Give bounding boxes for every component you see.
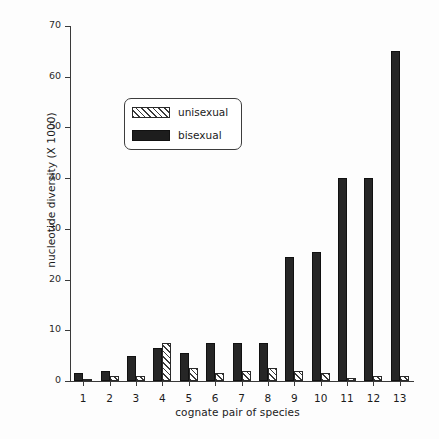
bar-group <box>391 26 409 381</box>
bar-unisexual <box>162 343 171 381</box>
bar-bisexual <box>101 371 110 381</box>
bar-bisexual <box>338 178 347 381</box>
bar-unisexual <box>189 368 198 381</box>
y-tick-label: 60 <box>49 70 61 81</box>
bar-group <box>101 26 119 381</box>
plot-area: 010203040506070 12345678910111213 <box>70 26 413 381</box>
bar-group <box>206 26 224 381</box>
y-tick-label: 30 <box>49 222 61 233</box>
bar-unisexual <box>242 371 251 381</box>
x-tick <box>162 382 163 386</box>
bar-group <box>74 26 92 381</box>
x-tick <box>373 382 374 386</box>
bar-unisexual <box>136 376 145 381</box>
bar-group <box>180 26 198 381</box>
bar-bisexual <box>259 343 268 381</box>
bar-group <box>153 26 171 381</box>
chart-legend: unisexual bisexual <box>124 98 242 150</box>
legend-label-bisexual: bisexual <box>178 129 222 141</box>
bar-group <box>233 26 251 381</box>
y-tick: 70 <box>65 26 70 27</box>
bar-unisexual <box>215 373 224 381</box>
bar-bisexual <box>180 353 189 381</box>
y-tick: 10 <box>65 330 70 331</box>
bar-bisexual <box>285 257 294 381</box>
bar-bisexual <box>127 356 136 381</box>
bar-unisexual <box>347 378 356 381</box>
x-tick <box>400 382 401 386</box>
legend-item-unisexual: unisexual <box>132 105 228 119</box>
x-tick <box>215 382 216 386</box>
bar-group <box>259 26 277 381</box>
y-tick-label: 10 <box>49 323 61 334</box>
y-tick: 60 <box>65 77 70 78</box>
bar-unisexual <box>373 376 382 381</box>
bar-group <box>312 26 330 381</box>
x-tick <box>347 382 348 386</box>
legend-item-bisexual: bisexual <box>132 128 222 142</box>
x-axis-title: cognate pair of species <box>60 406 415 418</box>
x-tick <box>189 382 190 386</box>
bar-chart-figure: nucleotide diversity (X 1000) cognate pa… <box>0 0 439 439</box>
legend-label-unisexual: unisexual <box>178 106 228 118</box>
bar-bisexual <box>206 343 215 381</box>
y-tick: 50 <box>65 127 70 128</box>
y-tick-label: 40 <box>49 171 61 182</box>
x-tick <box>321 382 322 386</box>
hatched-swatch-icon <box>132 107 170 118</box>
y-tick-label: 0 <box>55 374 61 385</box>
x-tick-label: 13 <box>385 392 415 404</box>
solid-black-swatch-icon <box>132 130 170 141</box>
bar-bisexual <box>391 51 400 381</box>
y-tick-label: 70 <box>49 19 61 30</box>
x-tick <box>136 382 137 386</box>
x-tick <box>268 382 269 386</box>
bar-unisexual <box>400 376 409 381</box>
bar-unisexual <box>268 368 277 381</box>
bar-unisexual <box>321 373 330 381</box>
y-tick-label: 20 <box>49 273 61 284</box>
bar-bisexual <box>312 252 321 381</box>
y-tick: 40 <box>65 178 70 179</box>
bar-bisexual <box>153 348 162 381</box>
bar-bisexual <box>364 178 373 381</box>
bar-bisexual <box>233 343 242 381</box>
bar-group <box>364 26 382 381</box>
bar-group <box>285 26 303 381</box>
x-tick <box>110 382 111 386</box>
x-tick <box>294 382 295 386</box>
bar-group <box>338 26 356 381</box>
bar-unisexual <box>110 376 119 381</box>
y-tick: 30 <box>65 229 70 230</box>
bar-unisexual <box>294 371 303 381</box>
x-tick <box>83 382 84 386</box>
y-tick-label: 50 <box>49 120 61 131</box>
bar-unisexual <box>83 379 92 381</box>
y-tick: 0 <box>65 381 70 382</box>
x-tick <box>242 382 243 386</box>
bar-bisexual <box>74 373 83 381</box>
y-axis-line <box>70 26 71 382</box>
bar-group <box>127 26 145 381</box>
y-tick: 20 <box>65 280 70 281</box>
